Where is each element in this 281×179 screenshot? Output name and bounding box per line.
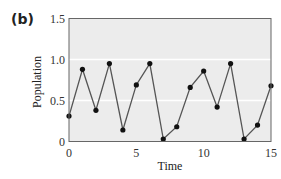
data-point [147, 61, 152, 66]
data-point [188, 85, 193, 90]
data-point [215, 104, 220, 109]
x-tick-label: 5 [133, 146, 139, 160]
y-tick-label: 0.5 [50, 94, 65, 108]
y-tick-label: 1.0 [50, 53, 65, 67]
y-axis-label: Population [30, 56, 44, 108]
data-point [107, 61, 112, 66]
data-point [255, 123, 260, 128]
data-point [174, 124, 179, 129]
x-tick-label: 10 [198, 146, 210, 160]
x-axis-ticks: 051015 [66, 146, 277, 160]
y-axis-ticks: 00.51.01.5 [50, 12, 65, 149]
data-point [80, 67, 85, 72]
x-axis-label: Time [158, 159, 183, 173]
y-tick-label: 0 [59, 135, 65, 149]
y-tick-label: 1.5 [50, 12, 65, 26]
x-tick-label: 15 [265, 146, 277, 160]
population-line-chart: 00.51.01.5 051015 Time Population [0, 0, 281, 179]
data-point [120, 127, 125, 132]
x-tick-label: 0 [66, 146, 72, 160]
data-point [201, 68, 206, 73]
data-point [134, 82, 139, 87]
data-point [93, 108, 98, 113]
data-point [161, 136, 166, 141]
data-point [241, 136, 246, 141]
data-point [228, 61, 233, 66]
